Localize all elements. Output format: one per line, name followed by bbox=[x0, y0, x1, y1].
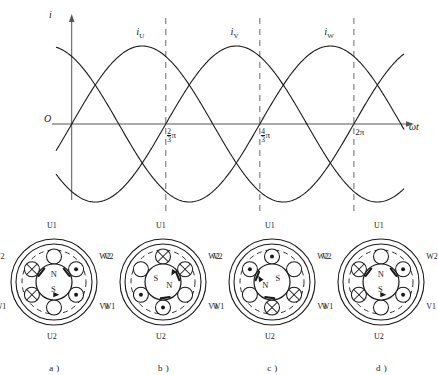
motor-svg bbox=[109, 222, 218, 375]
rotor-north-pole-label: N bbox=[262, 281, 268, 290]
terminal-label-V2: V2 bbox=[0, 253, 4, 261]
rotor-south-pole-label: S bbox=[378, 285, 383, 294]
terminal-label-U2: U2 bbox=[156, 333, 166, 341]
motor-diagram-a: NSU1U2V2W1W2V1a ) bbox=[0, 222, 109, 375]
subfigure-caption: c ) bbox=[218, 363, 327, 373]
terminal-label-W1: W1 bbox=[0, 303, 6, 311]
x-tick-label-2: 43π bbox=[261, 128, 270, 144]
curve-label-i_V: iV bbox=[231, 27, 239, 40]
motor-diagram-b: NSU1U2V2W1W2V1b ) bbox=[109, 222, 218, 375]
terminal-label-W1: W1 bbox=[322, 303, 334, 311]
stator-slot-bottom-empty bbox=[374, 300, 389, 315]
stator-slot-top-empty bbox=[374, 249, 389, 264]
three-phase-waveform-chart: i ωt O iUiViW23π43π2π bbox=[0, 0, 436, 215]
curve-label-i_U: iU bbox=[136, 27, 144, 40]
stator-slot-bottom-dot bbox=[156, 300, 171, 315]
terminal-label-V1: V1 bbox=[426, 303, 436, 311]
terminal-label-V2: V2 bbox=[104, 253, 114, 261]
terminal-label-U1: U1 bbox=[374, 222, 384, 230]
rotor bbox=[145, 264, 181, 300]
curve-label-i_W: iW bbox=[324, 27, 334, 40]
rotor-south-pole-label: S bbox=[154, 274, 159, 283]
y-axis-label: i bbox=[49, 10, 52, 20]
terminal-label-U2: U2 bbox=[265, 333, 275, 341]
motor-diagram-d: NSU1U2V2W1W2V1d ) bbox=[327, 222, 436, 375]
terminal-label-U2: U2 bbox=[374, 333, 384, 341]
motor-cross-section-row: NSU1U2V2W1W2V1a )NSU1U2V2W1W2V1b )NSU1U2… bbox=[0, 222, 436, 375]
terminal-label-U1: U1 bbox=[47, 222, 57, 230]
terminal-label-W1: W1 bbox=[104, 303, 116, 311]
subfigure-caption: b ) bbox=[109, 363, 218, 373]
stator-slot-bottom-cross bbox=[265, 300, 280, 315]
stator-slot-bottom-empty bbox=[47, 300, 62, 315]
x-axis-label: ωt bbox=[409, 122, 419, 132]
x-tick-label-3: 2π bbox=[355, 128, 364, 137]
stator-slot-top-cross bbox=[156, 249, 171, 264]
waveform-svg bbox=[0, 0, 436, 215]
origin-label: O bbox=[44, 114, 51, 124]
rotor-south-pole-label: S bbox=[51, 285, 56, 294]
motor-svg bbox=[0, 222, 109, 375]
subfigure-caption: d ) bbox=[327, 363, 436, 373]
terminal-label-U1: U1 bbox=[265, 222, 275, 230]
rotor-north-pole-label: N bbox=[378, 270, 384, 279]
motor-diagram-c: NSU1U2V2W1W2V1c ) bbox=[218, 222, 327, 375]
stator-slot-top-dot bbox=[265, 249, 280, 264]
terminal-label-U2: U2 bbox=[47, 333, 57, 341]
motor-svg bbox=[327, 222, 436, 375]
x-tick-label-1: 23π bbox=[167, 128, 176, 144]
terminal-label-V2: V2 bbox=[213, 253, 223, 261]
motor-svg bbox=[218, 222, 327, 375]
rotor-south-pole-label: S bbox=[275, 274, 280, 283]
terminal-label-W2: W2 bbox=[426, 253, 438, 261]
rotor-north-pole-label: N bbox=[166, 281, 172, 290]
terminal-label-V2: V2 bbox=[322, 253, 332, 261]
subfigure-caption: a ) bbox=[0, 363, 109, 373]
stator-slot-top-empty bbox=[47, 249, 62, 264]
terminal-label-W1: W1 bbox=[213, 303, 225, 311]
terminal-label-U1: U1 bbox=[156, 222, 166, 230]
rotor-north-pole-label: N bbox=[51, 270, 57, 279]
